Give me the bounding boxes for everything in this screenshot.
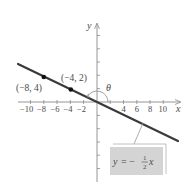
tick-label: −8 [37,104,46,114]
tick-label: −4 [64,104,74,114]
point-label-neg4-2: (−4, 2) [61,73,87,84]
coordinate-plane-figure: −10 −8 −6 −4 −2 4 6 8 10 x y θ (−8, 4) (… [0,0,190,185]
equation-equals-minus: = − [121,156,135,167]
angle-theta-arc [87,91,108,102]
x-axis-label: x [175,103,181,114]
callout-leader [134,123,143,144]
equation-denominator: 2 [143,163,147,171]
x-tick-labels: −10 −8 −6 −4 −2 4 6 8 10 [20,104,167,114]
theta-label: θ [106,82,111,93]
tick-label: 10 [159,104,168,114]
equation-variable: x [148,156,154,167]
tick-label: 4 [122,104,127,114]
tick-label: −10 [20,104,33,114]
equation-callout: y = − 1 2 x [110,144,166,175]
point-neg8-4 [42,75,47,80]
tick-label: −2 [77,104,86,114]
y-axis-label: y [86,20,92,31]
equation-lhs: y [112,156,118,167]
tick-label: −6 [51,104,60,114]
equation-numerator: 1 [143,154,147,162]
point-neg4-2 [69,87,74,92]
tick-label: 6 [135,104,139,114]
tick-label: 8 [148,104,152,114]
point-label-neg8-4: (−8, 4) [16,83,42,94]
